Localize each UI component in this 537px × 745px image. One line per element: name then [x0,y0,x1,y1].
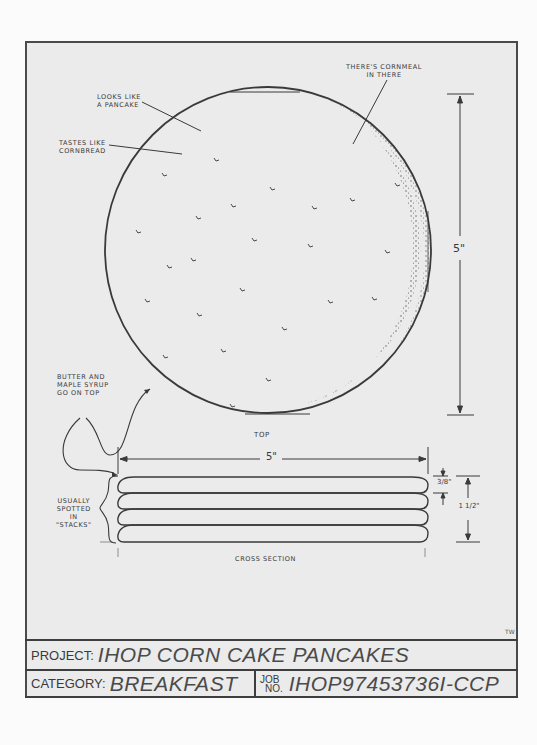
title-block: PROJECT: IHOP CORN CAKE PANCAKES CATEGOR… [25,639,518,698]
category-value: BREAKFAST [110,672,238,696]
annotation-cornmeal: THERE'S CORNMEAL IN THERE [346,63,422,79]
title-block-project-row: PROJECT: IHOP CORN CAKE PANCAKES [25,639,518,669]
pancake-layer [118,493,428,509]
project-label: PROJECT: [31,647,94,663]
pancake-layer [118,509,428,525]
title-block-category-row: CATEGORY: BREAKFAST JOB NO. IHOP97453736… [25,669,518,698]
job-label-line2: NO. [260,684,283,693]
drafter-initials: TW [505,628,515,635]
view-label-top: TOP [254,431,270,439]
thickness-dimension [433,468,448,505]
project-value: IHOP CORN CAKE PANCAKES [98,643,409,667]
pancake-layer [118,525,428,542]
view-label-cross-section: CROSS SECTION [235,555,296,563]
leader-tastes-like [109,145,182,154]
annotation-usually-stacks: USUALLY SPOTTED IN "STACKS" [56,497,92,529]
top-view-pancake [105,80,437,419]
corn-bit-marks [136,158,400,407]
toppings-arrow-to-stack [63,418,114,473]
dimension-diameter-horizontal: 5" [264,451,279,462]
job-number-value: IHOP97453736I-CCP [289,672,499,696]
toppings-arrow [86,389,150,455]
annotation-tastes-like-cornbread: TASTES LIKE CORNBREAD [59,139,106,155]
job-number-label: JOB NO. [260,675,283,693]
job-number-cell: JOB NO. IHOP97453736I-CCP [254,671,499,696]
annotation-looks-like-pancake: LOOKS LIKE A PANCAKE [97,93,141,109]
dimension-diameter-vertical: 5" [453,240,465,257]
pancake-stack-cross-section [118,477,428,542]
dimension-single-thickness: 3/8" [437,478,452,486]
stack-brace [100,476,118,543]
category-label: CATEGORY: [31,676,106,692]
annotation-toppings: BUTTER AND MAPLE SYRUP GO ON TOP [57,373,109,397]
dimension-stack-height: 1 1/2" [458,502,480,510]
pancake-layer [118,477,428,493]
cornmeal-stipple-shading [225,96,437,419]
